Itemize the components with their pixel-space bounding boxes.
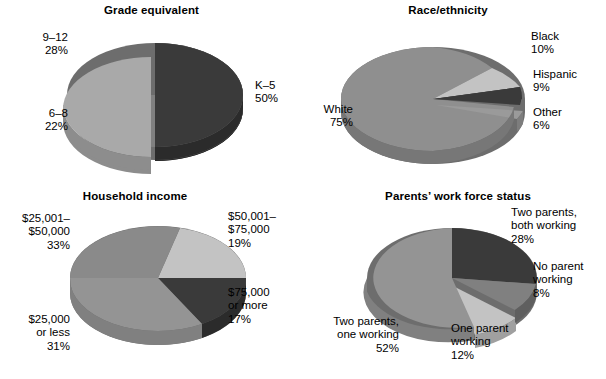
pie-label-25000-or-less: $25,000 or less 31% — [0, 313, 70, 353]
pie-label-two-parents-one-working: Two parents, one working 52% — [303, 315, 399, 355]
pie-label-one-parent-working: One parent working 12% — [451, 322, 536, 362]
pie-label-75000-or-more: $75,000 or more 17% — [228, 286, 303, 326]
pie-race-ethnicity — [323, 27, 543, 177]
chart-title-race-ethnicity: Race/ethnicity — [323, 4, 573, 16]
chart-title-household-income: Household income — [20, 190, 250, 202]
pie-label-other: Other 6% — [533, 106, 603, 133]
pie-label-k5: K–5 50% — [255, 79, 303, 106]
pie-label-50001-75000: $50,001– $75,000 19% — [228, 210, 303, 250]
chart-title-parents-work-force-status: Parents’ work force status — [333, 190, 583, 202]
pie-slice-6-8 — [63, 57, 151, 109]
pie-label-no-parent-working: No parent working 8% — [533, 260, 606, 300]
chart-panel-grade-equivalent: Grade equivalent 9–12 28% 6–8 22% K–5 50… — [0, 0, 303, 190]
chart-panel-race-ethnicity: Race/ethnicity Black 10% Hispanic 9% Oth… — [303, 0, 606, 190]
pie-label-two-parents-both-working: Two parents, both working 28% — [511, 206, 606, 246]
pie-label-black: Black 10% — [531, 30, 601, 57]
pie-grade-equivalent — [50, 27, 260, 177]
chart-panel-household-income: Household income $25,001– $50,000 33% $2… — [0, 190, 303, 379]
chart-panel-parents-work-force-status: Parents’ work force status Two parents, … — [303, 190, 606, 379]
pie-label-white: White 75% — [298, 103, 353, 130]
pie-label-25001-50000: $25,001– $50,000 33% — [0, 212, 70, 252]
pie-label-9-12: 9–12 28% — [4, 31, 68, 58]
chart-title-grade-equivalent: Grade equivalent — [0, 4, 303, 16]
pie-label-6-8: 6–8 22% — [4, 107, 68, 134]
pie-label-hispanic: Hispanic 9% — [533, 68, 605, 95]
